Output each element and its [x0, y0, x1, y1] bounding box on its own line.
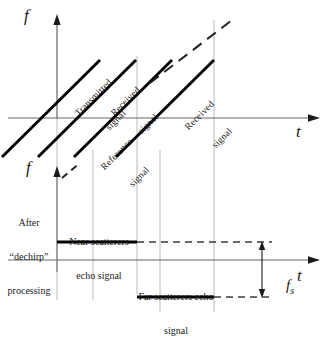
- lower-x-axis-label: t: [297, 266, 302, 285]
- dechirp-caption: After “dechirp” processing: [2, 195, 56, 318]
- label-received-signal-1-line2: signal: [132, 107, 166, 141]
- label-received-signal-1-line1: Received: [109, 85, 143, 119]
- dechirp-caption-line2: “dechirp”: [2, 251, 56, 262]
- dechirp-caption-line1: After: [2, 217, 56, 228]
- frequency-offset-dimension: [259, 241, 265, 298]
- lower-x-axis-arrow: [308, 256, 320, 264]
- label-received-signal-2-line2: signal: [206, 121, 240, 155]
- far-scatterers-echo-label: Far scatterers echo signal: [118, 269, 234, 340]
- upper-y-axis-arrow: [53, 14, 60, 25]
- frequency-offset-subscript: s: [290, 285, 294, 296]
- label-reference-signal-line2: signal: [122, 159, 158, 195]
- label-received-signal-2-line1: Received: [183, 99, 217, 133]
- upper-y-axis-label: f: [24, 6, 29, 25]
- far-scatterers-echo-label-line1: Far scatterers echo: [118, 291, 234, 302]
- upper-x-axis-label: t: [296, 122, 301, 141]
- lower-y-axis-arrow: [53, 166, 60, 177]
- far-scatterers-echo-label-line2: signal: [118, 325, 234, 336]
- chirp-dashed-extension: [150, 20, 232, 83]
- upper-x-axis-arrow: [308, 114, 320, 122]
- dechirp-caption-line3: processing: [2, 285, 56, 296]
- near-scatterers-echo-label-line1: Near scatterers: [59, 236, 139, 247]
- lower-y-axis-label: f: [26, 158, 31, 177]
- frequency-offset-label: fs: [270, 258, 294, 314]
- label-reference-signal-line1: Reference: [99, 137, 135, 173]
- lower-axis-dash-mark: [62, 163, 80, 178]
